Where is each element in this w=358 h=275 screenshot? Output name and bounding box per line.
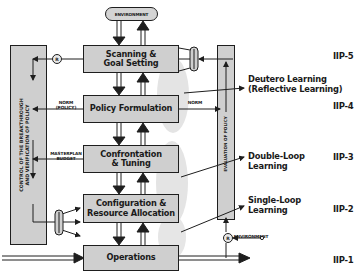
- capsule-top-right: [190, 47, 198, 71]
- vertical-flow-arrows: [113, 21, 149, 245]
- capsule-bottom-left: [55, 210, 63, 235]
- svg-text:R: R: [55, 57, 59, 62]
- connector-arrows: R R: [0, 0, 358, 275]
- svg-text:R: R: [226, 236, 230, 241]
- operations-input-arrow: [2, 253, 84, 263]
- operations-output-arrow: [179, 253, 250, 263]
